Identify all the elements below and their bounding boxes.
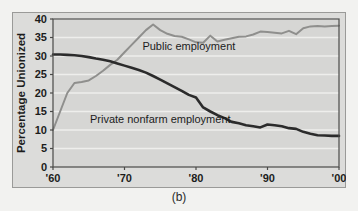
- figure: 0510152025303540'60'70'80'90'00 Public e…: [0, 0, 358, 211]
- y-tick-label: 40: [35, 13, 47, 25]
- y-axis-title-text: Percentage Unionized: [15, 33, 27, 153]
- y-axis-title: Percentage Unionized: [15, 33, 27, 153]
- x-tick-label: '00: [332, 172, 346, 184]
- y-tick-label: 35: [35, 31, 47, 43]
- y-tick-label: 20: [35, 87, 47, 99]
- x-tick-label: '70: [117, 172, 132, 184]
- x-tick-label: '80: [189, 172, 204, 184]
- line-chart: 0510152025303540'60'70'80'90'00 Public e…: [12, 12, 346, 188]
- figure-caption: (b): [0, 190, 358, 204]
- y-tick-label: 15: [35, 105, 47, 117]
- x-tick-label: '90: [260, 172, 275, 184]
- y-tick-label: 5: [41, 142, 47, 154]
- y-tick-label: 25: [35, 68, 47, 80]
- y-tick-label: 0: [41, 161, 47, 173]
- x-tick-label: '60: [46, 172, 61, 184]
- y-tick-label: 30: [35, 50, 47, 62]
- series-label-1: Private nonfarm employment: [90, 113, 231, 125]
- y-tick-label: 10: [35, 124, 47, 136]
- series-label-0: Public employment: [142, 40, 235, 52]
